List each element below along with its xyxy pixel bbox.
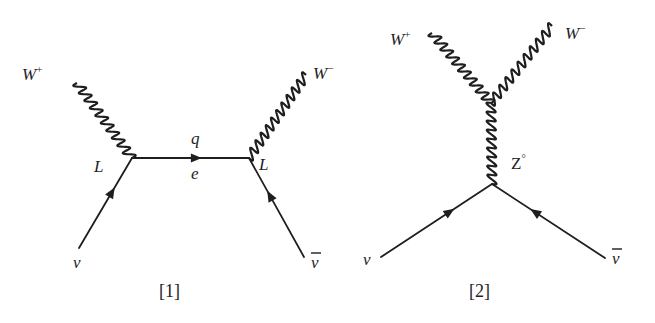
diagram-2-nubar-to-vertex-bottom-arrow-icon [530,209,542,219]
diagram-1-propagator-e-label: e [191,164,199,183]
diagram-2-z-label: Z° [511,152,526,173]
diagram-2-lines [381,23,605,258]
diagram-2: W+ W− Z° ν ν [2] [363,22,622,301]
diagram-1-propagator-q-label: q [191,129,200,148]
diagram-1-vertex-left-to-vertex-right-arrow-icon [191,153,202,162]
diagram-2-nubar-to-vertex-bottom-line [492,184,605,258]
diagram-2-w-plus-label: W+ [390,28,410,49]
diagram-1-nu-to-vertex-left-line [79,158,132,248]
diagram-1-nubar-to-vertex-right-line [249,158,304,257]
diagram-canvas: W+ W− L L q e ν ν [1] W+ W− Z° ν ν [2] [0,0,655,323]
diagram-2-nu-to-vertex-bottom-line [381,184,492,257]
diagram-1-w-minus-label: W− [313,62,333,83]
diagram-1-lines [73,72,306,257]
diagram-1-nu-to-vertex-left-arrow-icon [105,187,115,199]
antineutrino-symbol: ν [311,253,319,272]
feynman-diagram-figure: W+ W− L L q e ν ν [1] W+ W− Z° ν ν [2] [0,0,655,323]
diagram-2-vertex-bottom-to-vertex-top-wavy-line [486,103,496,185]
diagram-2-vertex-top-to-w-plus-wavy-line [429,33,495,103]
diagram-1-antineutrino-label: ν [311,253,321,272]
diagram-2-w-minus-label: W− [565,22,585,43]
diagram-1: W+ W− L L q e ν ν [1] [22,62,333,301]
diagram-1-vertex-right-to-w-minus-wavy-line [249,72,306,160]
diagram-1-vertex-left-to-w-plus-wavy-line [73,83,135,158]
diagram-1-caption: [1] [159,281,180,301]
diagram-2-nu-to-vertex-bottom-arrow-icon [443,209,455,219]
diagram-2-caption: [2] [469,281,490,301]
diagram-2-neutrino-label: ν [363,250,371,269]
diagram-2-vertex-top-to-w-minus-wavy-line [491,23,552,106]
diagram-1-vertex-left-label: L [93,157,103,176]
diagram-1-w-plus-label: W+ [22,63,42,84]
diagram-2-antineutrino-label: ν [612,249,622,268]
antineutrino-symbol: ν [612,249,620,268]
diagram-1-neutrino-label: ν [73,253,81,272]
diagram-1-vertex-right-label: L [258,155,268,174]
